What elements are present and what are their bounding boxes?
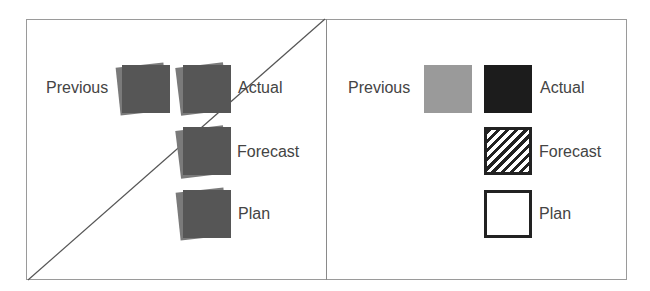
label-actual: Actual bbox=[238, 79, 282, 97]
previous-square bbox=[122, 65, 170, 113]
label-plan: Plan bbox=[539, 205, 571, 223]
forecast-swatch bbox=[484, 127, 532, 175]
actual-swatch bbox=[484, 65, 532, 113]
forecast-square bbox=[183, 127, 231, 175]
actual-square bbox=[183, 65, 231, 113]
label-forecast: Forecast bbox=[237, 143, 299, 161]
plan-square bbox=[183, 190, 231, 238]
previous-swatch bbox=[424, 65, 472, 113]
label-actual: Actual bbox=[540, 79, 584, 97]
label-forecast: Forecast bbox=[539, 143, 601, 161]
label-previous: Previous bbox=[46, 79, 108, 97]
plan-swatch bbox=[484, 190, 532, 238]
label-previous: Previous bbox=[348, 79, 410, 97]
label-plan: Plan bbox=[238, 205, 270, 223]
